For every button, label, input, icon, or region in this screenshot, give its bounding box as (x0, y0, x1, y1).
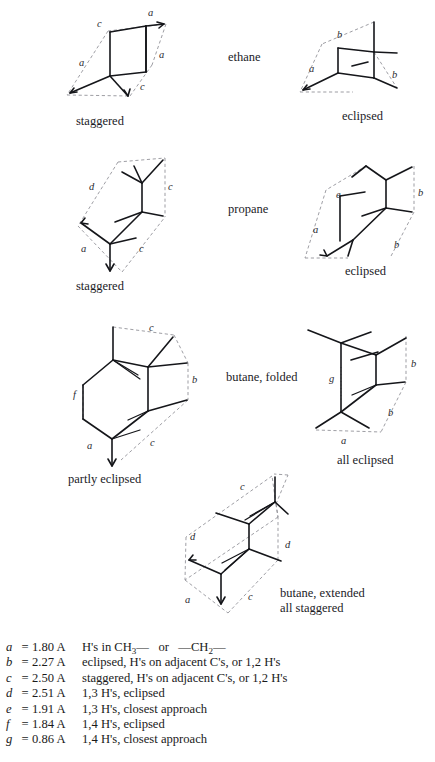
bond-thin (351, 352, 378, 360)
distance-legend: a = 1.80 A H's in CH3— or —CH2— b = 2.27… (6, 640, 430, 748)
legend-equals: = (18, 732, 32, 747)
dist-label-f: f (73, 389, 78, 400)
bond (386, 208, 412, 212)
bond (83, 419, 112, 439)
molecule-name-butane-extended: butane, extended (280, 586, 365, 600)
legend-value: 2.27 A (32, 655, 82, 670)
label-ethane-eclipsed: eclipsed (342, 109, 384, 123)
guide-line (276, 475, 288, 504)
label-butane-all-eclipsed: all eclipsed (337, 453, 394, 467)
molecule-name-ethane: ethane (228, 50, 261, 64)
guide-line (381, 382, 406, 432)
guide-line (276, 504, 278, 517)
legend-description: eclipsed, H's on adjacent C's, or 1,2 H'… (82, 655, 430, 670)
dist-label-a: a (341, 435, 346, 446)
dist-label-a: a (148, 7, 153, 18)
dist-label-a-right: a (159, 49, 164, 60)
legend-key: d (6, 686, 18, 701)
bond (341, 343, 376, 355)
legend-value: 1.80 A (32, 640, 82, 655)
guide-line (228, 560, 278, 613)
guide-line (316, 430, 381, 432)
dist-label-a-left: a (79, 57, 84, 68)
bond (376, 338, 406, 355)
guide-line (118, 158, 165, 162)
legend-row: f = 1.84 A 1,4 H's, eclipsed (6, 717, 430, 732)
legend-equals: = (18, 671, 32, 686)
label-butane-all-staggered: all staggered (280, 601, 344, 615)
dist-label-d-left: d (190, 531, 196, 542)
bond (338, 48, 374, 52)
bond (249, 549, 281, 561)
bond (338, 73, 374, 78)
molecule-name-butane-folded: butane, folded (226, 370, 298, 384)
legend-value: 0.86 A (32, 732, 82, 747)
guide-line (113, 327, 174, 335)
bond (366, 166, 386, 180)
dist-label-a: a (81, 243, 86, 254)
legend-row: a = 1.80 A H's in CH3— or —CH2— (6, 640, 430, 655)
legend-row: b = 2.27 A eclipsed, H's on adjacent C's… (6, 655, 430, 670)
legend-description: 1,3 H's, closest approach (82, 702, 430, 717)
dist-label-c-right: c (168, 181, 173, 192)
label-propane-eclipsed: eclipsed (345, 264, 387, 278)
guide-line (78, 162, 118, 226)
legend-key: c (6, 671, 18, 686)
guide-line (185, 537, 186, 580)
legend-equals: = (18, 717, 32, 732)
dist-label-b-bottom: b (388, 407, 393, 418)
dist-label-b-right: b (418, 187, 423, 198)
bond (249, 502, 275, 524)
bond (83, 360, 113, 385)
legend-equals: = (18, 702, 32, 717)
dist-label-c-top: c (240, 481, 245, 492)
dist-label-c-bottom: c (150, 437, 155, 448)
bond (386, 167, 412, 180)
dist-label-b-top: b (411, 358, 416, 369)
legend-equals: = (18, 655, 32, 670)
dist-label-c-top: c (149, 322, 154, 333)
label-ethane-staggered: staggered (76, 114, 125, 128)
dist-label-e: e (336, 189, 341, 200)
legend-description: H's in CH3— or —CH2— (82, 640, 430, 655)
legend-row: d = 2.51 A 1,3 H's, eclipsed (6, 686, 430, 701)
arrowhead (189, 555, 196, 560)
bond (352, 166, 366, 177)
guide-line (326, 166, 366, 190)
legend-equals: = (18, 640, 32, 655)
bond (216, 513, 249, 524)
guide-line (185, 517, 278, 580)
dist-label-a: a (87, 440, 92, 451)
bond (110, 26, 146, 32)
legend-description: 1,4 H's, closest approach (82, 732, 430, 747)
dist-label-d-right: d (285, 539, 291, 550)
guide-line (186, 476, 272, 537)
guide-line (274, 474, 288, 475)
bond (374, 52, 397, 53)
label-butane-partly-eclipsed: partly eclipsed (68, 472, 142, 486)
arrowhead (81, 218, 88, 224)
dist-label-b-bottom: b (394, 239, 399, 250)
bond (112, 430, 140, 439)
propane-staggered-structure: d c a c (78, 158, 173, 272)
bond (341, 385, 376, 412)
bond (148, 400, 187, 411)
figure-root: a c a a c staggered b a b eclip (0, 0, 435, 762)
dist-label-b-right: b (392, 69, 397, 80)
legend-description: 1,4 H's, eclipsed (82, 717, 430, 732)
guide-line (390, 212, 414, 258)
bond (148, 363, 187, 367)
guide-line (67, 95, 130, 96)
dist-label-g: g (329, 373, 334, 384)
bond (189, 560, 221, 574)
dist-label-c-bottom: c (140, 81, 145, 92)
label-propane-staggered: staggered (76, 279, 125, 293)
bond (308, 330, 341, 343)
dist-label-b: b (192, 374, 197, 385)
bond (142, 212, 163, 216)
bond (341, 332, 371, 343)
legend-key: g (6, 732, 18, 747)
legend-value: 1.91 A (32, 702, 82, 717)
legend-key: a (6, 640, 18, 655)
bond (245, 502, 275, 520)
